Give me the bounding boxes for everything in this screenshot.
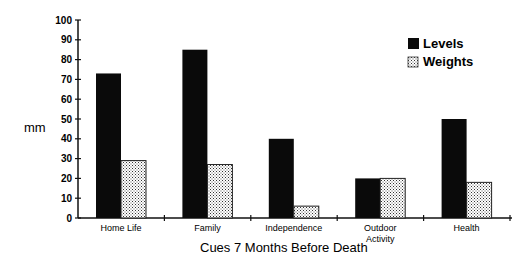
bar-weights	[294, 206, 319, 218]
bar-weights	[380, 178, 405, 218]
y-tick-label: 30	[61, 153, 73, 164]
y-tick-label: 40	[61, 133, 73, 144]
x-axis-title: Cues 7 Months Before Death	[200, 240, 368, 255]
bar-levels	[182, 50, 207, 218]
bar-levels	[96, 73, 121, 218]
y-tick-label: 0	[66, 213, 72, 224]
bar-levels	[269, 139, 294, 218]
legend-swatch-levels	[408, 38, 419, 49]
bars	[96, 50, 492, 218]
category-label: Outdoor	[364, 223, 397, 233]
bar-weights	[121, 161, 146, 218]
category-label: Health	[454, 223, 480, 233]
category-label: Independence	[265, 223, 322, 233]
y-axis: 0102030405060708090100	[55, 15, 81, 224]
y-tick-label: 20	[61, 173, 73, 184]
bar-weights	[467, 182, 492, 218]
legend-label-weights: Weights	[423, 54, 473, 69]
category-label: Home Life	[100, 223, 141, 233]
category-label: Activity	[366, 234, 395, 244]
legend-label-levels: Levels	[423, 36, 463, 51]
y-tick-label: 70	[61, 74, 73, 85]
y-tick-label: 50	[61, 114, 73, 125]
y-tick-label: 80	[61, 54, 73, 65]
legend: Levels Weights	[408, 36, 473, 69]
y-axis-label: mm	[24, 120, 46, 135]
legend-swatch-weights	[408, 57, 418, 67]
bar-levels	[442, 119, 467, 218]
bar-levels	[355, 178, 380, 218]
y-tick-label: 10	[61, 193, 73, 204]
bar-weights	[207, 165, 232, 218]
y-tick-label: 100	[55, 15, 72, 26]
y-tick-label: 90	[61, 34, 73, 45]
y-tick-label: 60	[61, 94, 73, 105]
category-label: Family	[194, 223, 221, 233]
bar-chart: 0102030405060708090100 Home LifeFamilyIn…	[0, 0, 532, 258]
